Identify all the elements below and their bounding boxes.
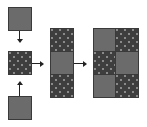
block-r1c1-plain [93,28,116,52]
strip-middle-plain [50,51,74,75]
arrow-right-icon-2 [83,61,87,67]
block-r3c1-plain [93,74,116,98]
strip-top-dotted [50,28,74,52]
strip-bottom-dotted [50,74,74,98]
arrow-down-icon [17,39,23,43]
arrow-right-icon-1 [40,61,44,67]
block-r1c2-dotted [115,28,139,52]
block-r2c1-dotted [93,51,116,75]
top-plain-square [8,7,32,31]
block-r2c2-plain [115,51,139,75]
middle-dotted-square [8,51,32,75]
block-r3c2-dotted [115,74,139,98]
arrow-up-shaft [19,84,20,96]
arrow-right-shaft-2 [74,63,83,64]
bottom-plain-square [8,96,32,120]
